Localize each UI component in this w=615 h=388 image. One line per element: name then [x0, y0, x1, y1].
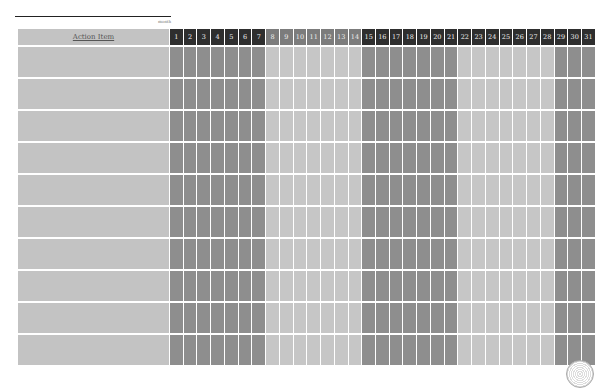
day-cell-31[interactable]: [582, 79, 596, 111]
day-cell-13[interactable]: [335, 207, 349, 239]
day-cell-5[interactable]: [225, 79, 239, 111]
day-cell-27[interactable]: [527, 47, 541, 79]
day-cell-27[interactable]: [527, 79, 541, 111]
day-cell-9[interactable]: [280, 207, 294, 239]
day-cell-22[interactable]: [458, 175, 472, 207]
day-cell-25[interactable]: [500, 207, 514, 239]
day-cell-1[interactable]: [170, 271, 184, 303]
day-cell-23[interactable]: [472, 207, 486, 239]
day-cell-2[interactable]: [184, 239, 198, 271]
day-cell-7[interactable]: [252, 271, 266, 303]
day-cell-27[interactable]: [527, 207, 541, 239]
day-cell-7[interactable]: [252, 207, 266, 239]
day-cell-31[interactable]: [582, 303, 596, 335]
day-cell-11[interactable]: [307, 207, 321, 239]
day-cell-21[interactable]: [445, 143, 459, 175]
day-cell-17[interactable]: [390, 111, 404, 143]
day-cell-18[interactable]: [403, 143, 417, 175]
day-cell-20[interactable]: [431, 207, 445, 239]
day-cell-6[interactable]: [239, 335, 253, 367]
day-cell-17[interactable]: [390, 79, 404, 111]
day-cell-2[interactable]: [184, 79, 198, 111]
day-cell-28[interactable]: [541, 335, 555, 367]
day-cell-2[interactable]: [184, 175, 198, 207]
day-cell-9[interactable]: [280, 271, 294, 303]
day-cell-15[interactable]: [362, 303, 376, 335]
day-cell-27[interactable]: [527, 143, 541, 175]
day-cell-3[interactable]: [197, 207, 211, 239]
action-item-cell[interactable]: [18, 271, 170, 303]
day-cell-16[interactable]: [376, 175, 390, 207]
day-cell-7[interactable]: [252, 239, 266, 271]
day-cell-10[interactable]: [294, 303, 308, 335]
day-cell-2[interactable]: [184, 207, 198, 239]
day-cell-18[interactable]: [403, 239, 417, 271]
day-cell-24[interactable]: [486, 111, 500, 143]
day-cell-29[interactable]: [555, 271, 569, 303]
day-cell-5[interactable]: [225, 303, 239, 335]
day-cell-3[interactable]: [197, 111, 211, 143]
day-cell-21[interactable]: [445, 239, 459, 271]
day-cell-6[interactable]: [239, 303, 253, 335]
day-cell-1[interactable]: [170, 79, 184, 111]
day-cell-4[interactable]: [211, 271, 225, 303]
day-cell-26[interactable]: [513, 335, 527, 367]
day-cell-16[interactable]: [376, 303, 390, 335]
day-cell-3[interactable]: [197, 271, 211, 303]
day-cell-23[interactable]: [472, 143, 486, 175]
day-cell-29[interactable]: [555, 239, 569, 271]
action-item-cell[interactable]: [18, 111, 170, 143]
day-cell-6[interactable]: [239, 175, 253, 207]
day-cell-13[interactable]: [335, 79, 349, 111]
day-cell-1[interactable]: [170, 335, 184, 367]
day-cell-1[interactable]: [170, 207, 184, 239]
day-cell-27[interactable]: [527, 271, 541, 303]
day-cell-14[interactable]: [349, 175, 363, 207]
day-cell-30[interactable]: [568, 175, 582, 207]
day-cell-21[interactable]: [445, 111, 459, 143]
day-cell-24[interactable]: [486, 335, 500, 367]
day-cell-27[interactable]: [527, 111, 541, 143]
day-cell-5[interactable]: [225, 271, 239, 303]
day-cell-12[interactable]: [321, 111, 335, 143]
day-cell-4[interactable]: [211, 303, 225, 335]
day-cell-10[interactable]: [294, 47, 308, 79]
day-cell-12[interactable]: [321, 207, 335, 239]
day-cell-25[interactable]: [500, 111, 514, 143]
day-cell-28[interactable]: [541, 271, 555, 303]
day-cell-1[interactable]: [170, 47, 184, 79]
day-cell-29[interactable]: [555, 207, 569, 239]
day-cell-13[interactable]: [335, 335, 349, 367]
day-cell-8[interactable]: [266, 175, 280, 207]
day-cell-9[interactable]: [280, 47, 294, 79]
day-cell-22[interactable]: [458, 47, 472, 79]
day-cell-7[interactable]: [252, 111, 266, 143]
day-cell-23[interactable]: [472, 111, 486, 143]
day-cell-19[interactable]: [417, 143, 431, 175]
action-item-cell[interactable]: [18, 207, 170, 239]
day-cell-18[interactable]: [403, 79, 417, 111]
day-cell-21[interactable]: [445, 335, 459, 367]
day-cell-26[interactable]: [513, 239, 527, 271]
day-cell-26[interactable]: [513, 47, 527, 79]
day-cell-30[interactable]: [568, 111, 582, 143]
day-cell-24[interactable]: [486, 303, 500, 335]
day-cell-30[interactable]: [568, 239, 582, 271]
day-cell-24[interactable]: [486, 143, 500, 175]
day-cell-14[interactable]: [349, 303, 363, 335]
day-cell-17[interactable]: [390, 335, 404, 367]
day-cell-5[interactable]: [225, 47, 239, 79]
action-item-cell[interactable]: [18, 143, 170, 175]
day-cell-1[interactable]: [170, 303, 184, 335]
day-cell-9[interactable]: [280, 239, 294, 271]
day-cell-10[interactable]: [294, 239, 308, 271]
day-cell-22[interactable]: [458, 207, 472, 239]
day-cell-14[interactable]: [349, 79, 363, 111]
day-cell-20[interactable]: [431, 271, 445, 303]
day-cell-10[interactable]: [294, 143, 308, 175]
day-cell-8[interactable]: [266, 47, 280, 79]
day-cell-8[interactable]: [266, 271, 280, 303]
day-cell-14[interactable]: [349, 143, 363, 175]
day-cell-11[interactable]: [307, 335, 321, 367]
day-cell-12[interactable]: [321, 303, 335, 335]
